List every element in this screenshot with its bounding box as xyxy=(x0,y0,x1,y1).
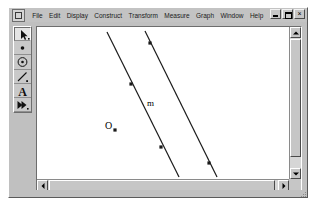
point-on-line-m-upper[interactable] xyxy=(129,82,132,85)
vertical-scrollbar-thumb[interactable] xyxy=(290,39,301,157)
close-icon: × xyxy=(295,10,304,18)
menu-item-construct[interactable]: Construct xyxy=(91,9,125,22)
point-tool[interactable] xyxy=(14,41,31,55)
point-on-parallel-lower[interactable] xyxy=(207,161,210,164)
scroll-down-button[interactable] xyxy=(290,168,301,179)
restore-icon xyxy=(283,10,292,18)
geometry-figure xyxy=(37,27,289,179)
restore-button[interactable] xyxy=(282,9,293,19)
selection-arrow-tool[interactable] xyxy=(14,27,31,41)
scroll-up-arrow-icon xyxy=(293,31,299,34)
menu-item-file[interactable]: File xyxy=(29,9,46,22)
close-button[interactable]: × xyxy=(294,9,305,19)
screen: File Edit Display Construct Transform Me… xyxy=(0,0,317,211)
svg-text:A: A xyxy=(18,84,27,97)
status-strip xyxy=(10,190,306,197)
client-area: A m O xyxy=(10,22,306,197)
menu-item-transform[interactable]: Transform xyxy=(125,9,161,22)
sketchpad-app-icon[interactable] xyxy=(12,9,25,22)
line-m[interactable] xyxy=(107,32,179,177)
straightedge-tool[interactable] xyxy=(14,70,31,84)
label-point-o[interactable]: O xyxy=(105,121,112,130)
menu-item-measure[interactable]: Measure xyxy=(161,9,193,22)
window-controls: × xyxy=(270,9,305,19)
menu-bar: File Edit Display Construct Transform Me… xyxy=(9,8,307,22)
point-o[interactable] xyxy=(113,128,116,131)
custom-tool[interactable] xyxy=(14,98,31,112)
scroll-right-arrow-icon xyxy=(282,183,285,189)
menu-item-edit[interactable]: Edit xyxy=(46,9,64,22)
point-on-line-m-lower[interactable] xyxy=(159,145,162,148)
application-window: File Edit Display Construct Transform Me… xyxy=(8,7,308,198)
resize-grip[interactable] xyxy=(298,189,306,197)
minimize-button[interactable] xyxy=(270,9,281,19)
menu-item-graph[interactable]: Graph xyxy=(193,9,217,22)
vertical-scrollbar[interactable] xyxy=(289,27,301,179)
menu-item-help[interactable]: Help xyxy=(247,9,267,22)
compass-tool[interactable] xyxy=(14,55,31,69)
scroll-down-arrow-icon xyxy=(293,172,299,175)
sketch-document-window: m O xyxy=(36,26,302,192)
text-tool[interactable]: A xyxy=(14,84,31,98)
tool-palette: A xyxy=(13,26,32,113)
minimize-icon xyxy=(271,10,280,18)
line-parallel[interactable] xyxy=(145,31,217,177)
menu-item-display[interactable]: Display xyxy=(63,9,91,22)
scroll-up-button[interactable] xyxy=(290,27,301,38)
scroll-left-arrow-icon xyxy=(41,183,44,189)
sketch-canvas[interactable]: m O xyxy=(37,27,289,179)
label-line-m[interactable]: m xyxy=(147,99,154,108)
point-on-parallel-upper[interactable] xyxy=(148,41,151,44)
menu-item-window[interactable]: Window xyxy=(217,9,247,22)
